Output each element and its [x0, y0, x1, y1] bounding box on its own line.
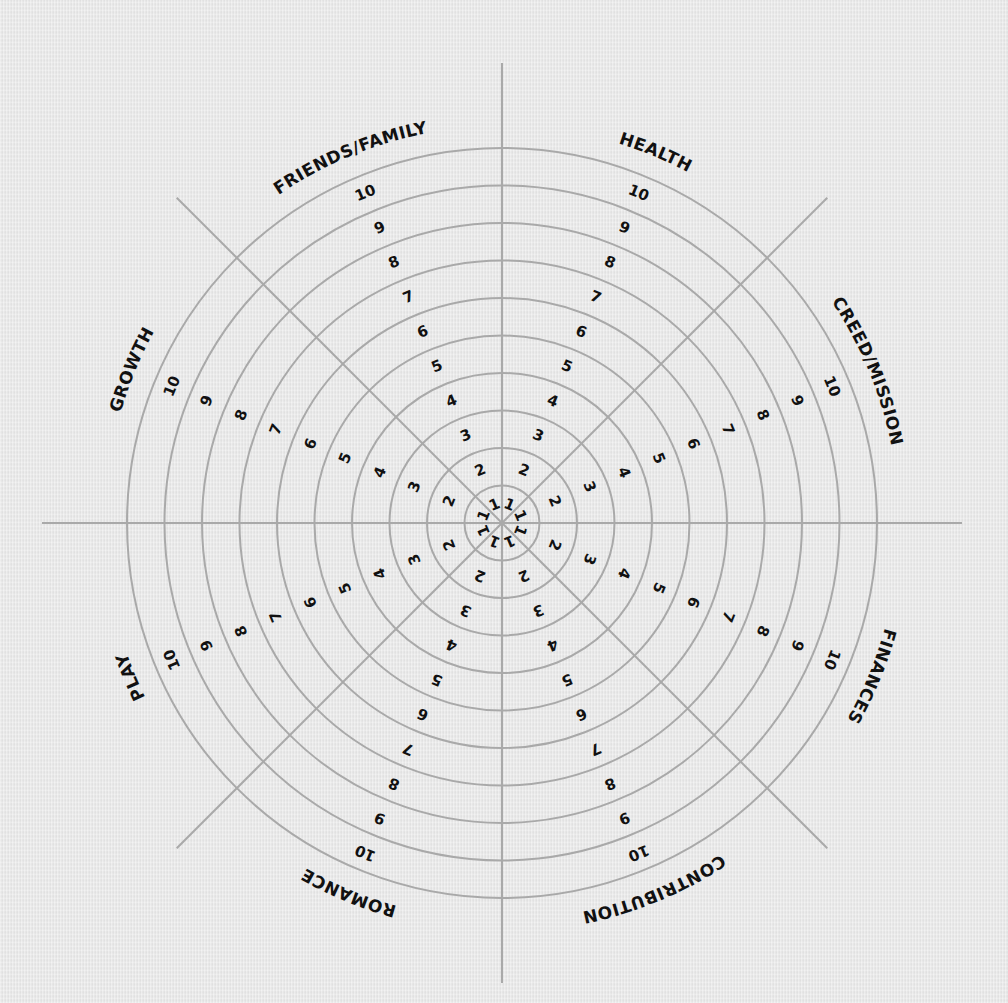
scale-number: 6: [414, 321, 431, 342]
scale-number: 10: [626, 181, 652, 206]
scale-number: 3: [530, 425, 547, 446]
scale-number: 3: [404, 551, 425, 568]
scale-number: 7: [718, 421, 739, 438]
category-label-growth: GROWTH: [105, 323, 158, 414]
category-label-text: ROMANCE: [298, 864, 399, 921]
scale-number: 9: [787, 637, 808, 654]
scale-number: 5: [335, 450, 356, 467]
scale-number: 2: [545, 493, 566, 510]
scale-number: 6: [683, 435, 704, 452]
scale-number: 8: [602, 773, 619, 794]
scale-number: 2: [439, 537, 460, 554]
scale-number: 10: [626, 841, 652, 866]
scale-number: 7: [400, 287, 417, 308]
scale-number: 5: [335, 580, 356, 597]
scale-number: 3: [457, 600, 474, 621]
scale-number: 4: [370, 565, 391, 582]
scale-number: 5: [649, 450, 670, 467]
scale-number: 7: [587, 739, 604, 760]
scale-number: 10: [160, 373, 185, 399]
scale-number: 2: [545, 537, 566, 554]
scale-number: 10: [820, 647, 845, 673]
scale-number: 8: [602, 252, 619, 273]
scale-number: 9: [196, 392, 217, 409]
scale-number: 4: [443, 635, 460, 656]
wheel-of-life-diagram: 1234567891012345678910123456789101234567…: [0, 0, 1008, 1003]
scale-number: 5: [559, 670, 576, 691]
scale-number: 3: [404, 478, 425, 495]
category-label-text: GROWTH: [105, 323, 158, 414]
scale-number: 8: [752, 623, 773, 640]
scale-number: 2: [472, 566, 489, 587]
scale-number: 2: [516, 460, 533, 481]
scale-number: 6: [683, 594, 704, 611]
scale-number: 10: [820, 373, 845, 399]
scale-number: 9: [616, 217, 633, 238]
scale-number: 7: [400, 739, 417, 760]
scale-number: 4: [443, 391, 460, 412]
scale-number: 9: [371, 808, 388, 829]
scale-number: 7: [718, 608, 739, 625]
scale-number: 9: [616, 808, 633, 829]
scale-number: 10: [352, 181, 378, 206]
scale-number: 8: [231, 623, 252, 640]
scale-number: 10: [352, 841, 378, 866]
scale-number: 6: [300, 435, 321, 452]
category-label-finances: FINANCES: [843, 627, 900, 728]
category-label-health: HEALTH: [617, 128, 696, 176]
category-label-romance: ROMANCE: [298, 864, 399, 921]
scale-number: 9: [196, 637, 217, 654]
scale-number: 5: [649, 580, 670, 597]
scale-number: 6: [573, 704, 590, 725]
scale-number: 8: [386, 773, 403, 794]
scale-number: 4: [370, 464, 391, 481]
scale-number: 2: [439, 493, 460, 510]
scale-number: 3: [457, 425, 474, 446]
scale-number: 10: [160, 647, 185, 673]
category-label-friends-family: FRIENDS/FAMILY: [270, 117, 430, 198]
scale-number: 4: [544, 635, 561, 656]
scale-number: 8: [752, 407, 773, 424]
scale-number: 4: [544, 391, 561, 412]
scale-number: 7: [266, 421, 287, 438]
scale-number: 6: [573, 321, 590, 342]
category-label-text: CREED/MISSION: [828, 293, 907, 447]
scale-number: 6: [300, 594, 321, 611]
scale-number: 9: [371, 217, 388, 238]
scale-number: 4: [614, 565, 635, 582]
scale-number: 8: [386, 252, 403, 273]
scale-number: 8: [231, 407, 252, 424]
scale-number: 3: [579, 478, 600, 495]
scale-number: 5: [559, 356, 576, 377]
scale-number: 6: [414, 704, 431, 725]
scale-number: 2: [516, 566, 533, 587]
category-label-play: PLAY: [111, 650, 149, 704]
scale-number: 9: [787, 392, 808, 409]
scale-number: 5: [429, 356, 446, 377]
category-label-creed-mission: CREED/MISSION: [828, 293, 907, 447]
category-label-contribution: CONTRIBUTION: [581, 851, 730, 928]
scale-number: 7: [266, 608, 287, 625]
spoke-axes: [42, 63, 962, 983]
category-label-text: PLAY: [111, 650, 149, 704]
scale-number: 4: [614, 464, 635, 481]
scale-number: 7: [587, 287, 604, 308]
category-label-text: FINANCES: [843, 627, 900, 728]
scale-number: 5: [429, 670, 446, 691]
category-label-text: HEALTH: [617, 128, 696, 176]
scale-number: 3: [579, 551, 600, 568]
scale-number: 3: [530, 600, 547, 621]
category-label-text: FRIENDS/FAMILY: [270, 117, 430, 198]
category-label-text: CONTRIBUTION: [581, 851, 730, 928]
scale-number: 2: [472, 460, 489, 481]
